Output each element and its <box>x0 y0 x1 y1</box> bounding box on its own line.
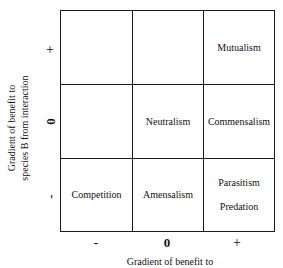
cell-parasitism-predation: Parasitism Predation <box>204 159 274 231</box>
cell-zero-minus <box>61 85 133 159</box>
cell-parasitism-label: Parasitism <box>218 178 260 188</box>
cell-commensalism: Commensalism <box>204 85 274 159</box>
x-tick-zero: 0 <box>157 236 177 249</box>
y-tick-zero: 0 <box>44 115 57 129</box>
cell-plus-zero <box>133 11 204 85</box>
cell-amensalism: Amensalism <box>133 159 204 231</box>
cell-mutualism: Mutualism <box>204 11 274 85</box>
x-tick-plus: + <box>227 236 247 250</box>
x-tick-minus: - <box>86 236 106 249</box>
cell-predation-label: Predation <box>220 202 258 212</box>
cell-neutralism: Neutralism <box>133 85 204 159</box>
y-tick-plus: + <box>43 43 57 57</box>
cell-plus-minus <box>61 11 133 85</box>
y-axis-label-line-1: Gradient of benefit to <box>5 63 18 193</box>
y-axis-label-line-2: species B from interaction <box>18 63 31 193</box>
interaction-grid: Mutualism Neutralism Commensalism Compet… <box>60 10 275 232</box>
cell-competition: Competition <box>61 159 133 231</box>
x-axis-label: Gradient of benefit to <box>100 255 240 268</box>
y-axis-label: Gradient of benefit to species B from in… <box>5 63 35 193</box>
y-tick-minus: - <box>44 190 57 204</box>
